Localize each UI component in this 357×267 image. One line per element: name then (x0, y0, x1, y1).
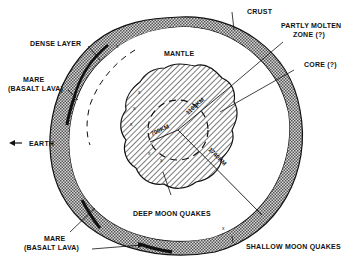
label-core: CORE (?) (304, 61, 337, 69)
label-partly-molten-1: PARTLY MOLTEN (281, 22, 341, 29)
label-mare-top-1: MARE (23, 76, 45, 83)
label-partly-molten-2: ZONE (?) (293, 31, 325, 39)
label-crust: CRUST (247, 8, 273, 15)
label-earth: EARTH (29, 140, 54, 147)
label-deep-quakes: DEEP MOON QUAKES (133, 210, 211, 218)
earth-arrow-icon (9, 140, 15, 146)
label-shallow-quakes: SHALLOW MOON QUAKES (246, 243, 341, 251)
label-dense-layer: DENSE LAYER (30, 40, 81, 47)
label-mare-bottom-1: MARE (44, 235, 66, 242)
label-mare-bottom-2: (BASALT LAVA) (24, 244, 79, 252)
label-mantle: MANTLE (164, 50, 194, 57)
moon-interior-diagram: CRUST PARTLY MOLTEN ZONE (?) CORE (?) DE… (0, 0, 357, 267)
label-mare-top-2: (BASALT LAVA) (8, 85, 63, 93)
